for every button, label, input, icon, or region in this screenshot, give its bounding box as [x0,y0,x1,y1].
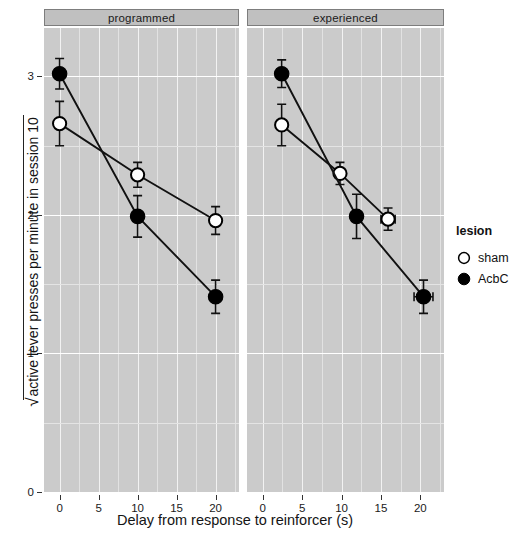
radical-sign: √ [23,398,43,407]
y-axis-tick [37,492,42,493]
data-point-sham[interactable] [131,168,144,181]
data-point-AcbC[interactable] [349,209,363,223]
panel-header-programmed: programmed [44,9,239,26]
data-point-AcbC[interactable] [416,290,430,304]
x-axis-tick [263,495,264,500]
x-axis-tick [216,495,217,500]
x-axis-tick [342,495,343,500]
legend: lesion sham AcbC [456,224,525,289]
data-point-AcbC[interactable] [274,67,288,81]
filled-circle-icon [456,271,478,287]
open-circle-icon [456,250,478,266]
data-point-sham[interactable] [53,117,66,130]
x-axis-tick [381,495,382,500]
legend-item-label: AcbC [478,272,509,286]
data-point-sham[interactable] [209,214,222,227]
series-layer [44,28,239,492]
x-axis-tick [420,495,421,500]
plot-panel-experienced [247,28,444,492]
y-axis-label: √active lever presses per minute in sess… [21,71,43,451]
data-point-sham[interactable] [381,213,394,226]
legend-item-sham[interactable]: sham [456,247,525,268]
x-axis-tick [138,495,139,500]
series-layer [247,28,444,492]
panel-header-label: programmed [108,12,175,24]
data-point-AcbC[interactable] [208,290,222,304]
x-axis-label: Delay from response to reinforcer (s) [0,512,470,528]
figure-canvas: programmed experienced 05101520051015200… [0,0,525,538]
legend-item-acbc[interactable]: AcbC [456,268,525,289]
data-point-sham[interactable] [275,118,288,131]
plot-panel-programmed [44,28,239,492]
panel-header-experienced: experienced [247,9,444,26]
legend-title: lesion [456,224,525,238]
x-axis-tick [60,495,61,500]
data-point-AcbC[interactable] [52,67,66,81]
x-axis-tick [177,495,178,500]
data-point-AcbC[interactable] [130,209,144,223]
panel-header-label: experienced [313,12,378,24]
x-axis-tick [302,495,303,500]
x-axis-tick [99,495,100,500]
y-axis-tick-label: 0 [14,486,34,498]
y-axis-label-text: active lever presses per minute in sessi… [23,115,41,399]
legend-item-label: sham [478,251,509,265]
